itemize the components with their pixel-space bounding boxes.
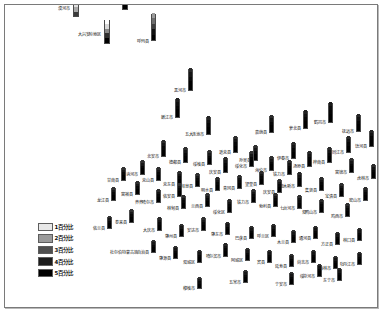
marker-stacked-bar [271, 225, 276, 237]
marker-stacked-bar [135, 182, 140, 195]
marker-stacked-bar [107, 217, 112, 229]
marker-label: 大兴安岭地区 [78, 33, 101, 38]
marker-segment-5 [304, 124, 307, 128]
marker-segment-5 [234, 149, 237, 152]
marker-segment-5 [226, 232, 229, 234]
marker-segment-5 [358, 262, 361, 264]
marker-label: 德都县 [169, 161, 181, 166]
marker-segment-5 [182, 205, 185, 208]
marker-stacked-bar [346, 137, 351, 153]
marker-segment-5 [336, 242, 339, 244]
marker-segment-5 [318, 274, 321, 276]
marker-segment-5 [224, 253, 227, 256]
marker-label: 呼玛县 [137, 40, 149, 45]
marker-segment-5 [157, 199, 160, 202]
marker-label: 富锦市 [335, 171, 347, 176]
marker-stacked-bar [122, 4, 128, 10]
legend-row[interactable]: 4百分比 [38, 256, 90, 268]
legend-row[interactable]: 3百分比 [38, 244, 90, 256]
marker-segment-5 [123, 4, 127, 9]
marker-label: 绥化区 [213, 211, 225, 216]
legend-swatch-1 [38, 223, 53, 231]
marker-stacked-bar [269, 157, 274, 171]
marker-segment-5 [252, 199, 255, 202]
marker-label: 甘南县 [107, 179, 119, 184]
marker-segment-5 [358, 238, 361, 240]
marker-label: 林甸县 [167, 207, 179, 212]
marker-stacked-bar [287, 161, 292, 175]
marker-label: 延寿县 [275, 265, 287, 270]
legend-row[interactable]: 1百分比 [38, 221, 90, 233]
marker-label: 齐齐哈尔市 [135, 201, 154, 206]
marker-label: 虎林市 [357, 177, 369, 182]
marker-segment-5 [207, 130, 210, 134]
marker-stacked-bar [307, 152, 312, 167]
marker-stacked-bar [233, 137, 238, 153]
marker-label: 五常市 [229, 281, 241, 286]
marker-stacked-bar [223, 158, 228, 173]
marker-stacked-bar [237, 176, 242, 189]
marker-stacked-bar [195, 174, 200, 187]
marker-stacked-bar [357, 229, 362, 241]
marker-segment-5 [346, 213, 349, 216]
marker-segment-5 [320, 187, 323, 190]
marker-stacked-bar [225, 223, 230, 235]
marker-stacked-bar [303, 111, 308, 129]
percentile-legend: 1百分比2百分比3百分比4百分比5百分比 [38, 221, 90, 279]
marker-label: 哈尔滨市 [206, 255, 221, 260]
marker-label: 同江市 [332, 151, 344, 156]
marker-stacked-bar [111, 188, 116, 201]
legend-swatch-2 [38, 234, 53, 242]
marker-stacked-bar [188, 69, 193, 91]
marker-stacked-bar [156, 168, 161, 181]
marker-stacked-bar [201, 218, 206, 231]
marker-segment-5 [189, 86, 192, 90]
marker-segment-5 [364, 197, 367, 200]
marker-label: 拜泉县 [181, 185, 193, 190]
marker-segment-5 [340, 193, 343, 196]
marker-segment-5 [298, 205, 301, 208]
marker-segment-5 [216, 187, 219, 190]
marker-label: 青冈县 [223, 187, 235, 192]
marker-segment-5 [184, 159, 187, 162]
marker-segment-5 [157, 177, 160, 180]
marker-stacked-bar [339, 184, 344, 197]
marker-label: 克山县 [142, 179, 154, 184]
marker-segment-5 [334, 266, 337, 268]
marker-label: 鸡西市 [331, 215, 343, 220]
marker-segment-5 [254, 157, 257, 160]
marker-stacked-bar [273, 194, 278, 207]
legend-swatch-5 [38, 269, 53, 277]
marker-segment-5 [246, 258, 249, 260]
marker-label: 巴彦县 [235, 237, 247, 242]
marker-segment-5 [312, 260, 315, 262]
legend-label: 3百分比 [55, 247, 74, 253]
legend-row[interactable]: 5百分比 [38, 267, 90, 279]
marker-segment-5 [238, 185, 241, 188]
marker-label: 绥芬河市 [300, 275, 315, 280]
marker-stacked-bar [227, 200, 232, 213]
marker-stacked-bar [345, 204, 350, 217]
marker-stacked-bar [297, 173, 302, 187]
marker-label: 安达市 [187, 229, 199, 234]
marker-label: 依安县 [163, 195, 175, 200]
marker-label: 绥棱县 [193, 163, 205, 168]
marker-stacked-bar [269, 116, 274, 133]
marker-stacked-bar [245, 249, 250, 261]
marker-label: 宾县 [257, 261, 265, 266]
marker-label: 集贤县 [305, 189, 317, 194]
legend-row[interactable]: 2百分比 [38, 233, 90, 245]
marker-label: 宝清县 [325, 195, 337, 200]
marker-label: 依兰县 [93, 227, 105, 232]
marker-segment-5 [357, 128, 360, 131]
marker-stacked-bar [328, 103, 333, 123]
marker-segment-5 [292, 155, 295, 158]
marker-segment-5 [158, 227, 161, 230]
marker-label: 北安市 [147, 155, 159, 160]
marker-stacked-bar [73, 4, 79, 17]
marker-stacked-bar [319, 200, 324, 213]
marker-segment-5 [288, 171, 291, 174]
marker-segment-5 [208, 161, 211, 164]
marker-stacked-bar [223, 244, 228, 257]
marker-stacked-bar [157, 218, 162, 231]
